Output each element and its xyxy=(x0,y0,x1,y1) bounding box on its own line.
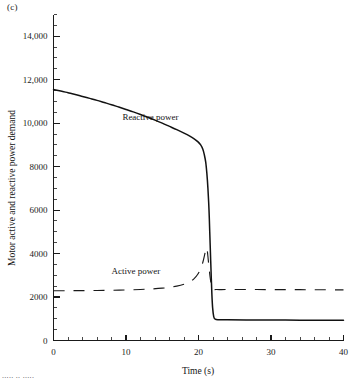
x-axis-tick-labels: 010203040 xyxy=(51,347,348,357)
power-demand-chart: 0200040006000800010,00012,00014,000 0102… xyxy=(0,0,354,381)
series-line-active-power xyxy=(54,248,344,291)
series-annotations: Reactive powerActive power xyxy=(112,112,179,276)
y-tick-label: 14,000 xyxy=(23,31,48,41)
y-tick-label: 12,000 xyxy=(23,75,48,85)
x-tick-label: 40 xyxy=(339,347,349,357)
chart-series-group xyxy=(54,89,344,320)
x-tick-label: 20 xyxy=(194,347,204,357)
x-axis-title: Time (s) xyxy=(182,366,214,377)
x-tick-label: 10 xyxy=(122,347,132,357)
y-axis-title: Motor active and reactive power demand xyxy=(7,110,17,266)
y-tick-label: 0 xyxy=(43,336,48,346)
y-axis-tick-labels: 0200040006000800010,00012,00014,000 xyxy=(23,31,48,345)
x-tick-label: 0 xyxy=(51,347,56,357)
series-annotation-reactive-power: Reactive power xyxy=(122,112,178,122)
y-tick-label: 8000 xyxy=(30,162,49,172)
series-line-reactive-power xyxy=(54,89,344,320)
page-footer-cutoff-text: ..... .. ..... xyxy=(2,371,34,378)
y-tick-label: 4000 xyxy=(30,249,49,259)
figure-container: (c) 0200040006000800010,00012,00014,000 … xyxy=(0,0,354,381)
y-tick-label: 6000 xyxy=(30,205,49,215)
y-tick-label: 10,000 xyxy=(23,118,48,128)
y-tick-label: 2000 xyxy=(30,292,49,302)
x-tick-label: 30 xyxy=(267,347,277,357)
series-annotation-active-power: Active power xyxy=(112,266,161,276)
